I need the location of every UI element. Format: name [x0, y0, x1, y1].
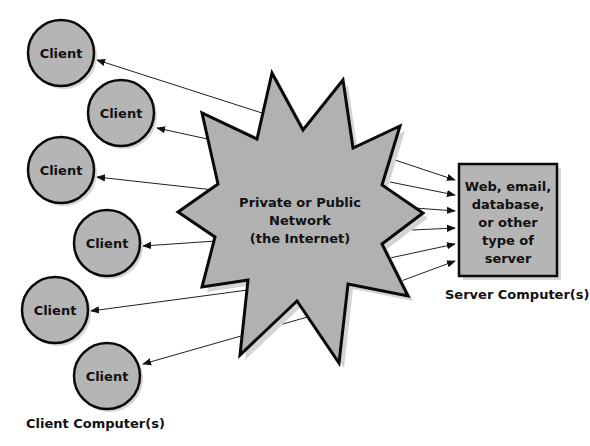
- client-node-3: Client: [28, 137, 97, 206]
- connection-line-client-2: [157, 128, 212, 140]
- client-label: Client: [86, 236, 129, 251]
- client-label: Client: [40, 163, 83, 178]
- client-node-6: Client: [74, 343, 143, 412]
- connection-line-client-4: [143, 241, 216, 246]
- client-server-diagram: Private or Public Network (the Internet)…: [0, 0, 590, 446]
- connection-line-server-5: [390, 244, 455, 258]
- client-node-5: Client: [22, 277, 91, 346]
- connection-line-client-6: [143, 314, 318, 364]
- server-label-line-3: or other: [478, 215, 538, 230]
- client-node-1: Client: [28, 20, 97, 89]
- clients-caption: Client Computer(s): [26, 416, 165, 431]
- server-label-line-2: database,: [472, 197, 545, 212]
- server-node: Web, email, database, or other type of s…: [459, 164, 561, 280]
- network-label-line-2: Network: [269, 213, 331, 228]
- network-label-line-3: (the Internet): [250, 231, 351, 246]
- client-node-4: Client: [74, 210, 143, 279]
- client-label: Client: [40, 46, 83, 61]
- client-node-2: Client: [88, 80, 157, 149]
- connection-line-client-3: [97, 177, 214, 190]
- connection-line-server-1: [395, 160, 455, 180]
- connection-line-server-2: [390, 182, 455, 195]
- client-label: Client: [86, 369, 129, 384]
- server-label-line-4: type of: [482, 233, 534, 248]
- client-nodes: Client Client Client Client Client Clien…: [22, 20, 157, 412]
- client-label: Client: [34, 303, 77, 318]
- server-label-line-5: server: [485, 251, 532, 266]
- network-label-line-1: Private or Public: [239, 195, 361, 210]
- server-caption: Server Computer(s): [445, 287, 589, 302]
- connection-line-server-4: [412, 228, 455, 230]
- client-label: Client: [100, 106, 143, 121]
- server-label-line-1: Web, email,: [465, 179, 551, 194]
